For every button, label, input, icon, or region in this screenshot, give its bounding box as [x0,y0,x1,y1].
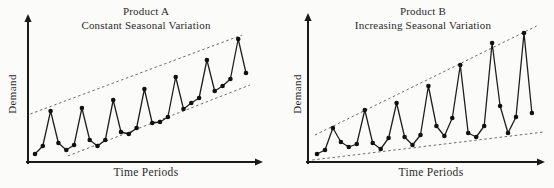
chart-panel-product-a: Product A Constant Seasonal Variation De… [0,0,277,188]
data-point [158,120,163,125]
data-point [64,148,69,153]
data-point [514,115,519,120]
data-point [197,96,202,101]
data-point [111,98,116,103]
data-point [173,75,178,80]
data-point [33,152,38,157]
data-point [442,134,447,139]
data-point [41,144,46,149]
chart-subtitle: Constant Seasonal Variation [30,18,262,32]
data-point [474,135,479,140]
data-point [378,147,383,152]
seasonal-variation-figure: Product A Constant Seasonal Variation De… [0,0,554,188]
data-point [530,111,535,116]
data-point [347,145,352,150]
demand-series-line [35,39,246,154]
data-point [72,143,77,148]
chart-panel-product-b: Product B Increasing Seasonal Variation … [277,0,554,188]
chart-subtitle: Increasing Seasonal Variation [307,18,539,32]
x-axis-arrowhead-icon [537,158,545,165]
data-point [339,140,344,145]
chart-title-product-b: Product B Increasing Seasonal Variation [307,4,539,33]
data-point [134,126,139,131]
data-point [56,141,61,146]
data-point [394,101,399,106]
data-point [434,124,439,129]
data-point [212,89,217,94]
y-axis-label-demand: Demand [6,0,20,188]
data-point [103,138,108,143]
data-point [236,37,241,42]
data-point [166,115,171,120]
y-axis-label-demand: Demand [291,0,305,188]
data-point [410,143,415,148]
data-point [402,135,407,140]
data-point [228,77,233,82]
chart-title-line1: Product A [30,4,262,18]
x-axis-label-time-periods: Time Periods [30,166,262,178]
data-point [119,130,124,135]
chart-title-line1: Product B [307,4,539,18]
data-point [127,132,132,137]
demand-series-line [317,33,532,154]
data-point [244,71,249,76]
data-point [466,131,471,136]
x-axis-arrowhead-icon [255,158,263,165]
data-point [323,148,328,153]
x-axis-label-time-periods: Time Periods [319,166,543,178]
data-point [355,142,360,147]
data-point [498,104,503,109]
data-point [418,133,423,138]
data-point [386,136,391,141]
data-point [426,84,431,89]
data-point [80,106,85,111]
data-point [331,126,336,131]
data-point [482,124,487,129]
data-point [370,141,375,146]
data-point [205,58,210,63]
data-point [490,41,495,46]
data-point [220,84,225,89]
data-point [48,109,53,114]
data-point [506,131,511,136]
data-point [95,144,100,149]
data-point [150,121,155,126]
chart-title-product-a: Product A Constant Seasonal Variation [30,4,262,33]
data-point [458,63,463,68]
data-point [87,138,92,143]
data-point [142,87,147,92]
data-point [450,116,455,121]
data-point [315,152,320,157]
data-point [181,107,186,112]
data-point [189,101,194,106]
data-point [363,108,368,113]
